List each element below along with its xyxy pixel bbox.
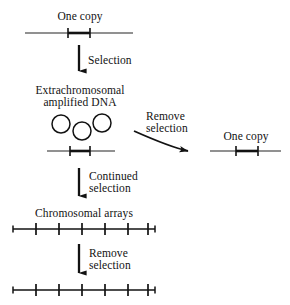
diagram-graphics [0, 0, 290, 305]
extrachromosomal-circle-1 [52, 115, 70, 133]
chromosome-right-group [210, 146, 281, 156]
extrachromosomal-circles-group [52, 114, 111, 140]
gene-amplification-diagram: One copy Selection Extrachromosomal ampl… [0, 0, 290, 305]
chromosomal-arrays-final-group [13, 284, 155, 296]
chromosomal-arrays-group [13, 223, 155, 235]
remove-selection-curved-arrow-path [134, 131, 188, 151]
chromosome-top-group [25, 28, 133, 38]
extrachromosomal-circle-2 [73, 122, 91, 140]
chromosome-mid-group [47, 146, 115, 156]
extrachromosomal-circle-3 [93, 114, 111, 132]
